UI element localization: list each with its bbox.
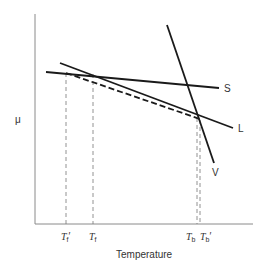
liquid-line-l [60, 63, 233, 128]
label-l: L [238, 123, 244, 134]
x-axis-label: Temperature [116, 249, 173, 260]
tick-tf-prime: Tf′ [61, 231, 71, 243]
chemical-potential-diagram: S L V μ Tf′ Tf Tb Tb′ Temperature [0, 0, 266, 263]
tick-tb: Tb [186, 231, 196, 243]
tick-tb-prime: Tb′ [200, 231, 211, 243]
label-v: V [212, 167, 219, 178]
solid-line-s [46, 72, 219, 88]
y-axis-label: μ [15, 114, 21, 125]
vapor-line-v [167, 25, 214, 163]
label-s: S [224, 83, 231, 94]
tick-tf: Tf [89, 231, 97, 243]
